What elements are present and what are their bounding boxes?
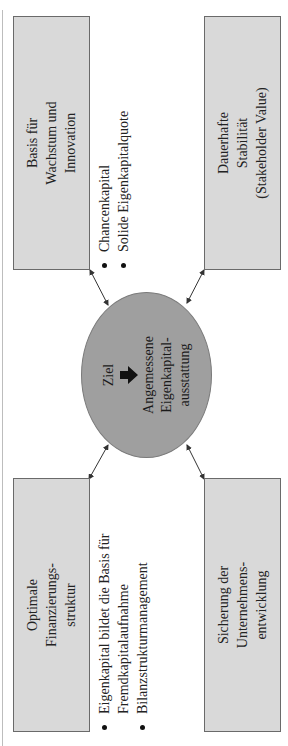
box-optimale-finanzierungsstruktur: Optimale Finanzierungs- struktur xyxy=(13,478,90,732)
bullet-item: Eigenkapital bildet die Basis für Fremdk… xyxy=(95,470,133,732)
box-label: Optimale Finanzierungs- struktur xyxy=(23,563,80,647)
bullet-list-left: Eigenkapital bildet die Basis für Fremdk… xyxy=(95,470,152,732)
box-sicherung-unternehmensentwicklung: Sicherung der Unternehmens- entwicklung xyxy=(204,478,281,732)
box-basis-wachstum-innovation: Basis für Wachstum und Innovation xyxy=(13,16,90,270)
diagram-canvas: Optimale Finanzierungs- struktur Sicheru… xyxy=(0,0,288,746)
arrow-top-right xyxy=(90,270,108,305)
goal-ellipse: Ziel Angemessene Eigenkapital- ausstattu… xyxy=(81,292,212,458)
bullet-list-right: Chancenkapital Solide Eigenkapitalquote xyxy=(95,70,133,270)
goal-text: Angemessene Eigenkapital- ausstattung xyxy=(140,336,194,414)
bullet-item: Solide Eigenkapitalquote xyxy=(114,70,133,270)
bullet-item: Bilanzstrukturmanagement xyxy=(133,470,152,732)
goal-label: Ziel xyxy=(100,364,118,387)
bullet-item: Chancenkapital xyxy=(95,70,114,270)
arrow-bottom-right xyxy=(187,270,204,303)
arrow-bottom-left xyxy=(187,445,204,479)
box-label: Sicherung der Unternehmens- entwicklung xyxy=(214,562,271,648)
box-dauerhafte-stabilitaet: Dauerhafte Stabilität (Stakeholder Value… xyxy=(204,16,281,270)
box-label: Basis für Wachstum und Innovation xyxy=(23,101,80,184)
arrow-down-icon xyxy=(120,366,138,384)
box-label: Dauerhafte Stabilität (Stakeholder Value… xyxy=(214,87,271,198)
